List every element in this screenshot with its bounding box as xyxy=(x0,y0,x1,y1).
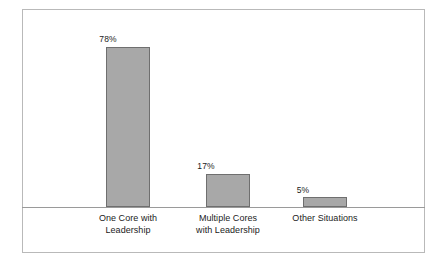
bar-1 xyxy=(206,174,250,207)
category-axis-line xyxy=(22,207,425,208)
bar-value-label-1: 17% xyxy=(184,161,228,171)
bar-value-label-0: 78% xyxy=(86,34,130,44)
bar-value-label-2: 5% xyxy=(281,185,325,195)
bar-2 xyxy=(303,197,347,207)
bar-0 xyxy=(106,47,150,207)
bar-chart-figure: 78% One Core with Leadership 17% Multipl… xyxy=(0,0,446,262)
category-label-2: Other Situations xyxy=(265,213,385,225)
plot-area: 78% One Core with Leadership 17% Multipl… xyxy=(22,9,425,253)
